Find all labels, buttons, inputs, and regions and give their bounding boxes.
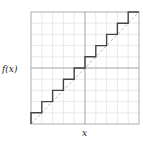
step-function-chart: f(x) x — [0, 0, 143, 142]
x-axis-label: x — [82, 128, 87, 138]
y-axis-label: f(x) — [1, 64, 18, 74]
